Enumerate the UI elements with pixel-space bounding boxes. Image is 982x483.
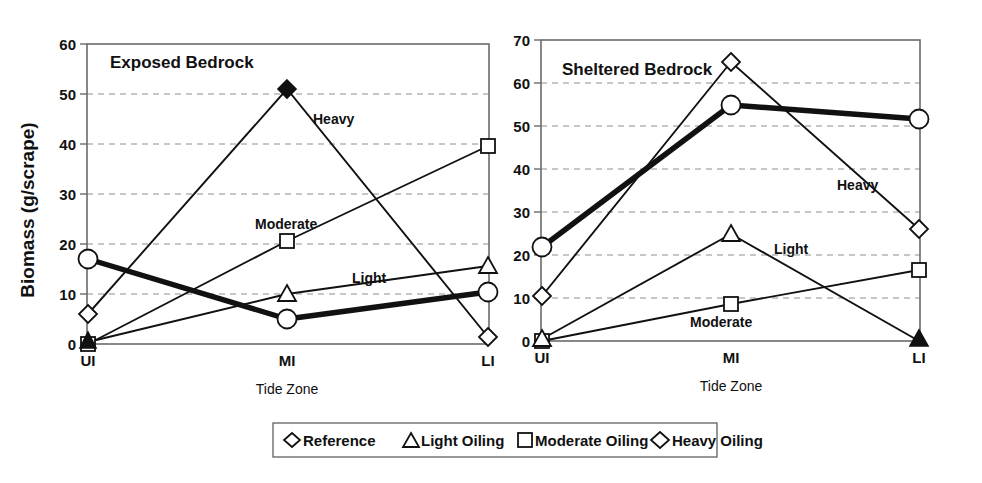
y-tick-label: 50: [513, 118, 530, 135]
x-tick-label: MI: [279, 352, 296, 369]
y-tick-label: 60: [513, 75, 530, 92]
annotation-heavy: Heavy: [313, 111, 354, 127]
right-panel-title: Sheltered Bedrock: [562, 60, 713, 79]
y-tick-label: 30: [59, 186, 76, 203]
y-tick-label: 40: [59, 136, 76, 153]
legend-label: Light Oiling: [421, 432, 504, 449]
circle-open-icon: [278, 310, 297, 329]
circle-open-icon: [79, 250, 98, 269]
y-tick-label: 70: [513, 32, 530, 49]
x-tick-label: LI: [912, 349, 925, 366]
figure-container: Biomass (g/scrape) 60: [0, 0, 982, 483]
y-tick-label: 60: [59, 36, 76, 53]
right-x-axis-title: Tide Zone: [700, 378, 763, 394]
annotation-light: Light: [352, 270, 387, 286]
circle-open-icon: [722, 96, 741, 115]
y-tick-label: 40: [513, 161, 530, 178]
left-x-tick-labels: UI MI LI: [81, 352, 495, 369]
legend[interactable]: Reference Light Oiling Moderate Oiling H…: [273, 423, 763, 457]
biomass-tide-zone-figure: Biomass (g/scrape) 60: [0, 0, 982, 483]
y-tick-label: 0: [522, 333, 530, 350]
legend-label: Reference: [303, 432, 376, 449]
square-open-icon: [724, 297, 738, 311]
left-series-annotations: Heavy Moderate Light: [255, 111, 387, 286]
y-tick-label: 50: [59, 86, 76, 103]
annotation-moderate: Moderate: [690, 314, 752, 330]
legend-label: Moderate Oiling: [535, 432, 648, 449]
square-open-icon: [481, 139, 495, 153]
y-tick-label: 0: [68, 336, 76, 353]
y-tick-label: 30: [513, 204, 530, 221]
x-tick-label: MI: [723, 349, 740, 366]
y-tick-label: 10: [513, 290, 530, 307]
circle-open-icon: [910, 110, 929, 129]
annotation-moderate: Moderate: [255, 216, 317, 232]
left-x-axis-title: Tide Zone: [256, 381, 319, 397]
annotation-heavy: Heavy: [837, 177, 878, 193]
x-tick-label: UI: [81, 352, 96, 369]
circle-open-icon: [533, 238, 552, 257]
right-x-tick-labels: UI MI LI: [535, 349, 926, 366]
x-tick-label: LI: [481, 352, 494, 369]
y-tick-label: 20: [513, 247, 530, 264]
triangle-open-icon: [479, 257, 497, 273]
x-tick-label: UI: [535, 349, 550, 366]
panel-sheltered-bedrock: 70 60 50 40 30 20 10 0 Sheltered Bedrock: [513, 32, 928, 394]
left-y-tick-labels: 60 50 40 30 20 10 0: [59, 36, 76, 353]
right-y-tick-labels: 70 60 50 40 30 20 10 0: [513, 32, 530, 350]
legend-label: Heavy Oiling: [672, 432, 763, 449]
square-open-icon: [912, 263, 926, 277]
panel-exposed-bedrock: 60 50 40 30 20 10 0 Exposed Bedrock: [59, 36, 497, 397]
annotation-light: Light: [774, 241, 809, 257]
square-open-icon: [518, 433, 532, 447]
circle-open-icon: [479, 283, 498, 302]
y-axis-title: Biomass (g/scrape): [17, 122, 38, 297]
triangle-open-icon: [722, 225, 740, 241]
square-open-icon: [280, 234, 294, 248]
y-tick-label: 10: [59, 286, 76, 303]
legend-item-moderate-oiling[interactable]: Moderate Oiling: [518, 432, 648, 449]
left-panel-title: Exposed Bedrock: [110, 53, 254, 72]
left-markers-heavy-oiling: [79, 80, 497, 346]
right-markers-moderate-oiling: [535, 263, 926, 348]
left-y-tickmarks: [80, 44, 87, 344]
y-tick-label: 20: [59, 236, 76, 253]
